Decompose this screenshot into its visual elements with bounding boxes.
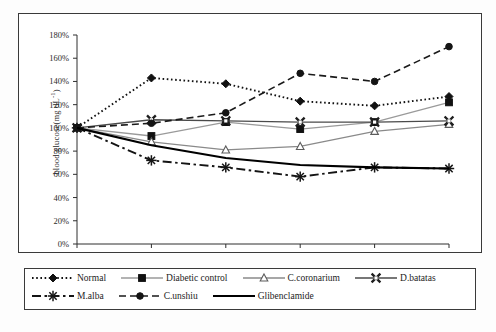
chart-frame: blood glucose(mg dL-1) 0%20%40%60%80%100… [18,13,482,253]
y-tick-label: 20% [53,216,69,226]
legend-label-m-alba: M.alba [77,291,104,301]
y-axis-title-text: blood glucose(mg dL [51,98,61,175]
legend-item-c-coronarium[interactable]: C.coronarium [242,272,341,284]
data-point-marker [296,97,304,105]
legend-label-diabetic-control: Diabetic control [166,273,227,283]
data-point-marker [48,291,58,301]
data-point-marker [139,275,146,282]
legend-key-c-unshiu [118,290,162,302]
series-diabetic-control [74,99,453,139]
legend-label-d-batatas: D.batatas [400,273,436,283]
y-tick-label: 0% [58,239,69,249]
series-m-alba [72,123,454,182]
legend-row-2: M.albaC.unshiuGlibenclamide [31,290,328,302]
legend-row-1: NormalDiabetic controlC.coronariumD.bata… [31,272,450,284]
legend-label-c-unshiu: C.unshiu [164,291,198,301]
data-point-marker [148,120,155,127]
plot-area: 0%20%40%60%80%100%120%140%160%180%0h1h3h… [19,14,481,252]
legend-label-normal: Normal [77,273,106,283]
data-point-marker [297,70,304,77]
data-point-marker [371,78,378,85]
legend-box: NormalDiabetic controlC.coronariumD.bata… [24,268,476,310]
legend-key-d-batatas [354,272,398,284]
data-point-marker [295,171,305,181]
data-point-marker [446,43,453,50]
legend-label-c-coronarium: C.coronarium [288,273,341,283]
series-c-unshiu [74,43,453,131]
series-normal [73,74,453,132]
legend-item-normal[interactable]: Normal [31,272,106,284]
legend-key-glibenclamide [212,290,256,302]
data-point-marker [136,293,143,300]
legend-key-m-alba [31,290,75,302]
legend-item-m-alba[interactable]: M.alba [31,290,104,302]
figure-root: blood glucose(mg dL-1) 0%20%40%60%80%100… [0,0,496,332]
legend-item-c-unshiu[interactable]: C.unshiu [118,290,198,302]
data-point-marker [146,155,156,165]
legend-item-d-batatas[interactable]: D.batatas [354,272,436,284]
y-axis-title-exponent: -1 [49,92,56,98]
legend-key-diabetic-control [120,272,164,284]
legend-item-glibenclamide[interactable]: Glibenclamide [212,290,314,302]
legend-item-diabetic-control[interactable]: Diabetic control [120,272,227,284]
data-point-marker [446,99,453,106]
data-point-marker [222,80,230,88]
data-point-marker [223,109,230,116]
legend-label-glibenclamide: Glibenclamide [258,291,314,301]
data-point-marker [221,162,231,172]
legend-key-normal [31,272,75,284]
y-axis-title: blood glucose(mg dL-1) [49,52,61,212]
data-point-marker [297,126,304,133]
data-point-marker [371,102,379,110]
y-axis-title-close: ) [51,89,61,92]
y-tick-label: 180% [49,30,69,40]
data-point-marker [147,74,155,82]
legend-key-c-coronarium [242,272,286,284]
data-point-marker [49,274,57,282]
